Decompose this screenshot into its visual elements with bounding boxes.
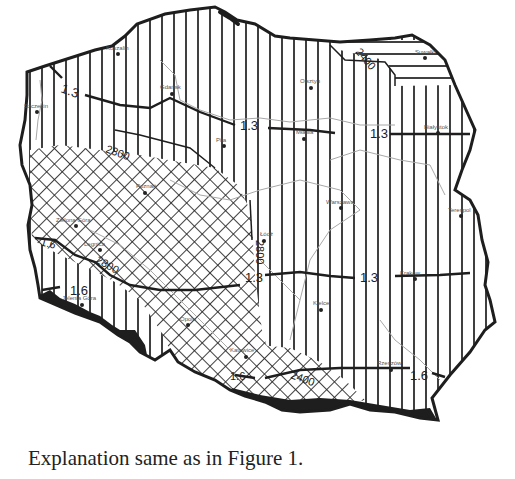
city-label-gdansk: Gdańsk (160, 84, 182, 90)
poland-map-figure: 1.3 1.3 1.3 1.3 1.3 1.6 1.6 1.6 2400 280… (0, 0, 515, 440)
city-label-katowice: Katowice (230, 347, 255, 353)
city-label-legnica: Legnica (84, 241, 106, 247)
iso-label-2800-center: 2800 (254, 240, 266, 264)
city-label-suwalki: Suwałki (415, 49, 436, 55)
iso-label-1-6-south-west: 1.6 (230, 370, 245, 382)
city-label-pila: Piła (216, 137, 227, 143)
city-label-opole: Opole (180, 316, 197, 322)
city-label-terespol: Terespol (448, 207, 471, 213)
city-label-warszawa: Warszawa (326, 199, 354, 205)
iso-label-1-3-central-east: 1.3 (360, 270, 378, 285)
city-label-krakow: Kraków (400, 270, 421, 276)
city-label-poznan: Poznań (136, 183, 156, 189)
city-label-bialystok: Białystok (424, 124, 449, 130)
city-label-rzeszow: Rzeszów (377, 360, 402, 366)
city-label-mlawa: Mława (296, 129, 314, 135)
figure-caption: Explanation same as in Figure 1. (28, 446, 303, 471)
city-label-szczecin: Szczecin (24, 103, 48, 109)
iso-label-1-3-central: 1.3 (245, 270, 263, 285)
city-label-kielce: Kielce (313, 300, 330, 306)
city-label-olsztyn: Olsztyn (300, 78, 320, 84)
iso-label-1-3-north-center: 1.3 (240, 118, 258, 133)
city-label-koszalin: Koszalin (106, 45, 129, 51)
iso-label-1-3-ne: 1.3 (370, 126, 388, 141)
city-label-zielona-gora: Zielona Góra (56, 217, 91, 223)
city-label-jelenia-gora: Jelenia Góra (62, 295, 97, 301)
city-label-lodz: Łódź (260, 231, 273, 237)
iso-label-1-6-south-east: 1.6 (410, 368, 428, 383)
